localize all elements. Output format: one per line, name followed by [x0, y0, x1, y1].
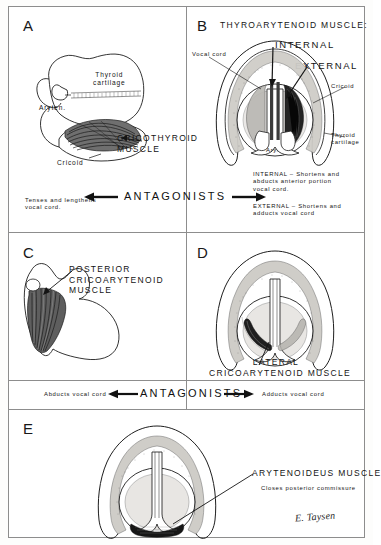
panel-e-letter: E [23, 420, 34, 437]
antagonists-row1-right-arrow [230, 192, 266, 201]
panel-a-illustration [9, 21, 186, 206]
panel-e-label-muscle: ARYTENOIDEUS MUSCLE [252, 468, 381, 479]
panel-a-label-cricoid: Cricoid [57, 159, 83, 167]
antagonists-row2-left-arrow [108, 389, 140, 398]
panel-e: E [9, 410, 364, 538]
panel-d: D [187, 233, 364, 380]
panel-b-label-thyroid-cartilage: Thyroid cartilage [331, 132, 360, 147]
panel-b-caption-internal: INTERNAL – Shortens and abducts anterior… [253, 171, 340, 193]
panel-b-label-vocal-cord: Vocal cord [192, 51, 227, 58]
panel-b-label-cricoid: Cricoid [331, 83, 354, 90]
panel-d-illustration [187, 243, 364, 371]
antagonists-row2-left-text: Abducts vocal cord [44, 391, 106, 398]
panel-d-label-muscle: LATERAL CRICOARYTENOID MUSCLE [209, 357, 343, 378]
antagonists-row2-right-arrow [222, 389, 254, 398]
antagonists-row2-right-text: Adducts vocal cord [262, 391, 324, 398]
panel-a-label-arytenoid: Aryten. [39, 104, 66, 112]
panel-b-caption-external: EXTERNAL – Shortens and adducts vocal co… [253, 203, 342, 218]
panel-e-illustration [57, 418, 257, 538]
antagonists-row1-left-arrow [84, 192, 120, 201]
panel-a-label-thyroid-cartilage: Thyroid cartilage [93, 71, 126, 87]
panel-b-label-arytenoid: Ary. [266, 147, 279, 154]
panel-c-label-muscle: POSTERIOR CRICOARYTENOID MUSCLE [69, 264, 164, 296]
panel-c: C [9, 233, 186, 380]
antagonists-row1-label: ANTAGONISTS [124, 190, 226, 202]
artist-signature: E. Taysen [295, 510, 336, 524]
panel-e-label-subtitle: Closes posterior commissure [261, 485, 356, 492]
